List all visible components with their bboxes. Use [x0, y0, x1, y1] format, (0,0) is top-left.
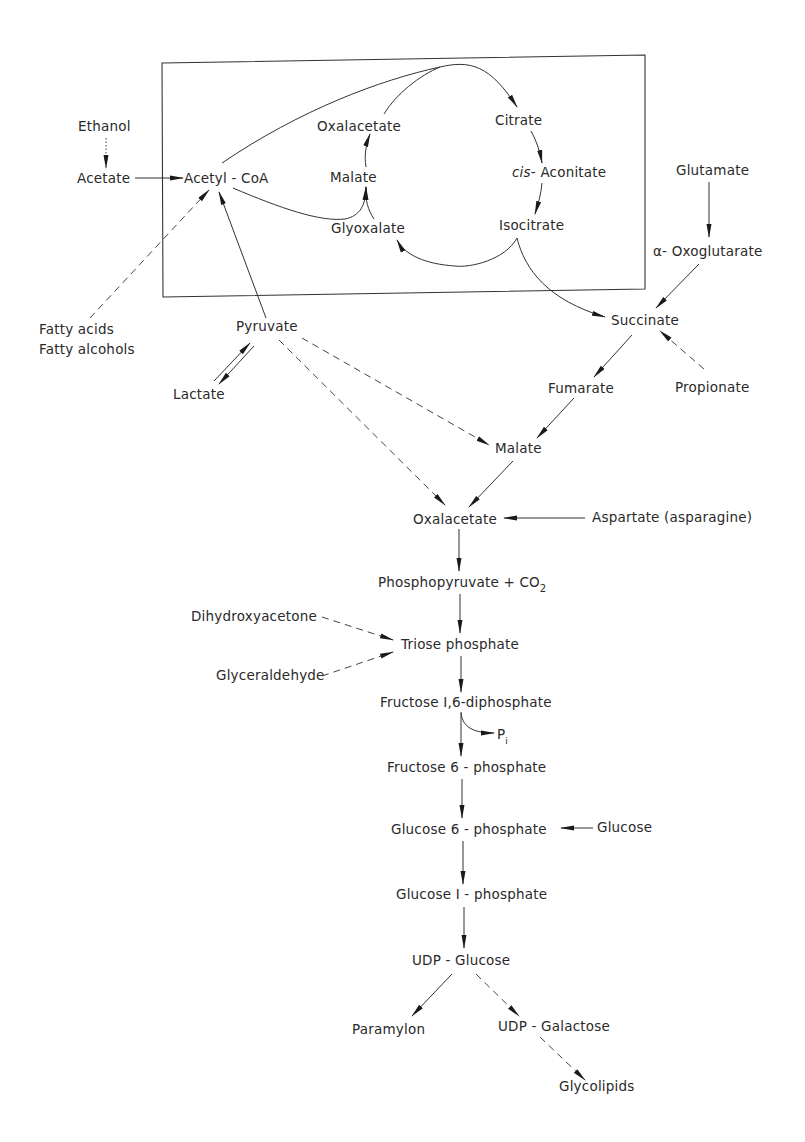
co2-subscript: 2	[540, 583, 547, 594]
edge-malate-oxalacetate	[469, 461, 513, 507]
node-pyruvate: Pyruvate	[236, 318, 298, 334]
node-oxalacetate-cycle: Oxalacetate	[317, 118, 401, 134]
metabolic-pathway-diagram: Ethanol Acetate Acetyl - CoA Oxalacetate…	[0, 0, 805, 1142]
node-fumarate: Fumarate	[548, 380, 614, 396]
node-triose-phosphate: Triose phosphate	[400, 636, 519, 652]
edge-udpglucose-paramylon	[412, 974, 452, 1016]
edge-glyceraldehyde-triose	[322, 652, 393, 676]
cis-prefix: cis	[512, 164, 531, 180]
node-glucose-1-phosphate: Glucose I - phosphate	[396, 886, 547, 902]
edge-isocitrate-glyoxalate	[397, 238, 517, 266]
node-fatty-acids: Fatty acids	[39, 321, 114, 337]
node-udp-glucose: UDP - Glucose	[412, 952, 510, 968]
edges	[90, 64, 709, 1080]
edge-pyruvate-lactate	[219, 346, 254, 384]
edge-fumarate-malate	[537, 398, 574, 438]
edge-citrate-aconitate	[531, 131, 542, 163]
node-glycolipids: Glycolipids	[559, 1078, 635, 1094]
edge-pyruvate-malate	[302, 338, 489, 445]
edge-pyruvate-acetylcoa	[219, 192, 266, 318]
node-phosphopyruvate: Phosphopyruvate + CO2	[378, 574, 546, 594]
node-oxalacetate: Oxalacetate	[413, 511, 497, 527]
node-lactate: Lactate	[173, 386, 225, 402]
node-udp-galactose: UDP - Galactose	[498, 1018, 610, 1034]
phosphopyruvate-label: Phosphopyruvate + CO	[378, 574, 540, 590]
node-succinate: Succinate	[611, 312, 679, 328]
edge-acetylcoa-citrate	[222, 64, 517, 163]
node-malate: Malate	[495, 440, 542, 456]
edge-pyruvate-oxalacetate	[279, 340, 445, 505]
node-pi: Pi	[497, 726, 508, 746]
edge-udpglucose-udpgalactose	[476, 974, 519, 1016]
node-paramylon: Paramylon	[352, 1021, 425, 1037]
node-cis-aconitate: cis- Aconitate	[512, 164, 606, 180]
edge-aconitate-isocitrate	[535, 183, 542, 214]
edge-fructose16-pi	[461, 712, 494, 733]
edge-lactate-pyruvate	[214, 343, 250, 381]
aconitate-label: - Aconitate	[531, 164, 607, 180]
node-dihydroxyacetone: Dihydroxyacetone	[191, 608, 317, 624]
edge-acetylcoa-malate	[233, 187, 366, 219]
edge-fattyacids-acetylcoa	[90, 190, 209, 318]
edge-propionate-succinate	[660, 331, 704, 369]
node-malate-cycle: Malate	[330, 169, 377, 185]
node-isocitrate: Isocitrate	[499, 217, 564, 233]
node-propionate: Propionate	[675, 379, 749, 395]
node-ethanol: Ethanol	[78, 118, 131, 134]
edge-succinate-fumarate	[594, 335, 632, 377]
node-glyoxalate: Glyoxalate	[331, 220, 405, 236]
node-glucose: Glucose	[597, 819, 652, 835]
edge-malate-oxalacetate-cycle	[365, 134, 370, 167]
node-fructose-16-diphosphate: Fructose I,6-diphosphate	[380, 694, 552, 710]
node-fructose-6-phosphate: Fructose 6 - phosphate	[387, 759, 546, 775]
node-acetate: Acetate	[77, 170, 130, 186]
pi-subscript: i	[505, 736, 508, 746]
node-glyceraldehyde: Glyceraldehyde	[216, 667, 325, 683]
node-aspartate: Aspartate (asparagine)	[592, 509, 752, 525]
edge-glyoxalate-malate	[366, 187, 374, 219]
node-citrate: Citrate	[495, 112, 542, 128]
node-glucose-6-phosphate: Glucose 6 - phosphate	[391, 821, 547, 837]
edge-dihydroxyacetone-triose	[322, 617, 393, 640]
edge-isocitrate-succinate	[517, 238, 605, 317]
node-acetyl-coa: Acetyl - CoA	[184, 170, 269, 186]
node-alpha-oxoglutarate: α- Oxoglutarate	[653, 243, 762, 259]
node-glutamate: Glutamate	[676, 162, 749, 178]
edge-oxoglutarate-succinate	[656, 264, 699, 308]
node-fatty-alcohols: Fatty alcohols	[39, 341, 135, 357]
pi-label: P	[497, 726, 505, 742]
edge-udpgalactose-glycolipids	[540, 1037, 585, 1080]
